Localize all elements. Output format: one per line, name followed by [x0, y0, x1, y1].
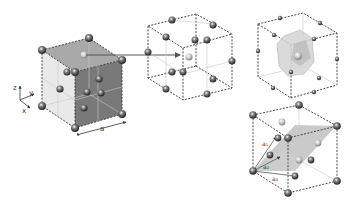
vector-a2-label: a₂	[263, 163, 270, 170]
primitive-cell: a₁ a₂ a₃	[249, 101, 341, 197]
axis-z-label: z	[13, 84, 17, 92]
lattice-constant-label: a	[100, 125, 104, 133]
axis-y-label: y	[29, 89, 33, 97]
conventional-cell	[38, 34, 180, 132]
axes-triad: z y x	[13, 84, 34, 115]
fcc-cell	[145, 14, 236, 100]
vector-a3-label: a₃	[272, 175, 279, 182]
vector-a1-label: a₁	[262, 140, 269, 147]
axis-x-label: x	[22, 107, 26, 115]
wigner-seitz-cell	[256, 13, 339, 98]
crystal-structure-diagram: z y x a	[0, 0, 354, 208]
